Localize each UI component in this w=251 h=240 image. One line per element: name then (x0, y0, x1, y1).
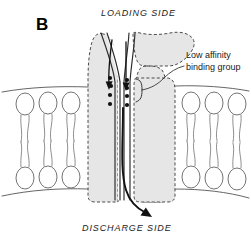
membrane-upper-surface-right (175, 86, 249, 91)
lipid-left-lower-1 (16, 142, 34, 189)
lipid-tail (187, 114, 188, 141)
lipid-right-lower-1 (182, 141, 200, 188)
binding-group-label-line2: binding group (186, 62, 241, 72)
lipid-tail (193, 141, 195, 166)
binding-dot (108, 93, 112, 97)
lipid-head (16, 167, 34, 189)
lipid-head (62, 166, 80, 188)
lipid-right-upper-3 (228, 93, 246, 142)
binding-dot (125, 94, 129, 98)
lipid-right-upper-1 (182, 92, 200, 141)
discharge-side-label: DISCHARGE SIDE (82, 223, 172, 233)
lipid-tail (73, 141, 75, 166)
lipid-right-lower-3 (228, 143, 246, 190)
lipid-tail (193, 114, 195, 141)
lipid-left-lower-2 (39, 141, 57, 188)
lipid-head (182, 92, 200, 114)
lipid-head (205, 92, 223, 114)
lipid-right-upper-2 (205, 92, 223, 141)
membrane-lower-surface-left (2, 189, 88, 196)
lipid-head (205, 167, 223, 189)
lipid-head (62, 92, 80, 114)
lipid-tail (50, 114, 52, 141)
lipid-left-upper-3 (62, 92, 80, 141)
lipid-tail (187, 141, 188, 166)
lipid-tail (27, 115, 29, 142)
lipid-tail (44, 114, 45, 141)
lipid-head (182, 166, 200, 188)
lipid-head (228, 93, 246, 115)
lipid-tail (50, 141, 52, 166)
loading-side-label: LOADING SIDE (101, 8, 176, 18)
lipid-tail (210, 114, 211, 141)
diagram-canvas: B LOADING SIDE DISCHARGE SIDE Low affini… (0, 0, 251, 240)
protein-lower-block (134, 78, 175, 202)
lipid-tail (21, 142, 22, 167)
lipid-tail (21, 115, 22, 142)
membrane-transport-figure: B LOADING SIDE DISCHARGE SIDE Low affini… (0, 0, 251, 240)
lipid-tail (67, 114, 68, 141)
lipid-left-lower-3 (62, 141, 80, 188)
discharge-arrow-head (141, 208, 153, 218)
lipid-tail (27, 142, 29, 167)
lipid-tail (73, 114, 75, 141)
lipid-tail (239, 143, 241, 168)
membrane-upper-surface-left (2, 87, 88, 92)
lipid-tail (233, 143, 234, 168)
lipid-head (228, 168, 246, 190)
lipid-head (16, 93, 34, 115)
lipid-tail (67, 141, 68, 166)
binding-dot (125, 103, 129, 107)
lipid-tail (216, 142, 218, 167)
binding-dot (108, 102, 112, 106)
lipid-right-lower-2 (205, 142, 223, 189)
lipid-tail (210, 142, 211, 167)
lipid-head (39, 166, 57, 188)
carrier-protein-group (88, 32, 194, 202)
lipid-left-upper-2 (39, 92, 57, 141)
panel-letter: B (36, 15, 48, 34)
lipid-tail (216, 114, 218, 141)
lipid-tail (44, 141, 45, 166)
binding-group-label-line1: Low affinity (186, 50, 231, 60)
lipid-tail (239, 115, 241, 142)
lipid-head (39, 92, 57, 114)
lipid-tail (233, 115, 234, 142)
lipid-left-upper-1 (16, 93, 34, 142)
